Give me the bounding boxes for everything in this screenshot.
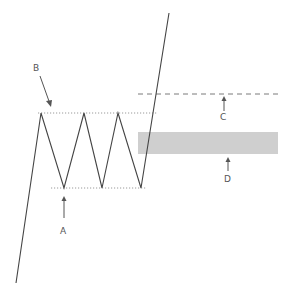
pattern-diagram: B A C D bbox=[0, 0, 290, 293]
label-b: B bbox=[33, 63, 39, 73]
arrow-c-head-icon bbox=[222, 96, 227, 101]
arrow-b-icon bbox=[40, 76, 50, 104]
label-d: D bbox=[224, 174, 231, 184]
arrow-b-head-icon bbox=[46, 100, 52, 107]
zone-d-box bbox=[138, 132, 278, 154]
label-a: A bbox=[60, 226, 67, 236]
arrow-d-head-icon bbox=[226, 157, 231, 162]
arrow-a-head-icon bbox=[62, 196, 67, 201]
diagram-canvas: B A C D bbox=[0, 0, 290, 293]
label-c: C bbox=[220, 112, 226, 122]
